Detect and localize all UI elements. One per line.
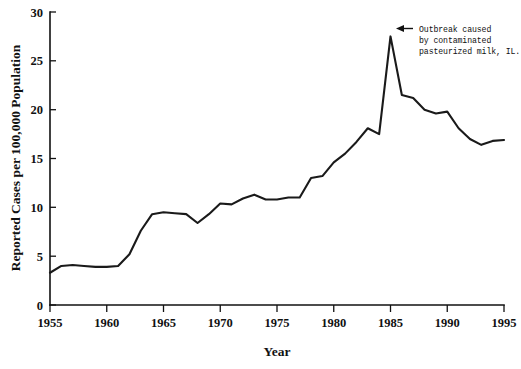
annotation-line: Outbreak caused: [419, 25, 491, 34]
outbreak-annotation-text: Outbreak caused by contaminated pasteuri…: [419, 25, 520, 56]
outbreak-annotation-arrow: [396, 25, 413, 32]
y-axis-title: Reported Cases per 100,000 Population: [8, 44, 23, 271]
y-tick-label: 0: [37, 299, 43, 313]
x-tick-label: 1995: [492, 316, 517, 330]
x-tick-label: 1970: [208, 316, 233, 330]
y-tick-label: 25: [31, 54, 44, 68]
x-tick-label: 1990: [435, 316, 460, 330]
x-tick-label: 1975: [265, 316, 290, 330]
y-axis-ticks: [50, 12, 56, 305]
x-tick-label: 1980: [321, 316, 346, 330]
x-axis-ticks: [50, 305, 504, 312]
y-tick-label: 10: [31, 201, 44, 215]
data-series-line: [50, 36, 504, 272]
line-chart-svg: 0 5 10 15 20 25 30 1955 1960 1965 1970: [0, 0, 521, 369]
x-axis-title: Year: [264, 344, 291, 359]
x-tick-label: 1960: [94, 316, 119, 330]
x-tick-label: 1985: [378, 316, 403, 330]
chart-figure: 0 5 10 15 20 25 30 1955 1960 1965 1970: [0, 0, 521, 369]
x-tick-label: 1965: [151, 316, 176, 330]
y-tick-label: 5: [37, 250, 43, 264]
y-tick-label: 20: [31, 103, 44, 117]
y-tick-label: 15: [31, 152, 44, 166]
annotation-line: by contaminated: [419, 36, 491, 45]
x-tick-label: 1955: [38, 316, 63, 330]
x-axis-tick-labels: 1955 1960 1965 1970 1975 1980 1985 1990 …: [38, 316, 517, 330]
annotation-line: pasteurized milk, IL.: [419, 47, 520, 56]
y-axis-tick-labels: 0 5 10 15 20 25 30: [31, 6, 44, 313]
y-tick-label: 30: [31, 6, 44, 20]
